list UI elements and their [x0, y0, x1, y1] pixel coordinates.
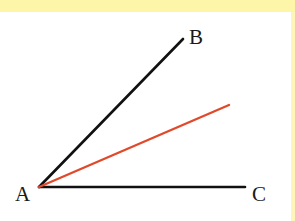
label-a: A — [15, 182, 31, 206]
label-b: B — [189, 25, 203, 49]
angle-diagram: A B C — [0, 0, 295, 221]
ray-ab — [39, 39, 183, 187]
label-c: C — [252, 182, 266, 206]
inner-ray-red — [39, 105, 229, 187]
